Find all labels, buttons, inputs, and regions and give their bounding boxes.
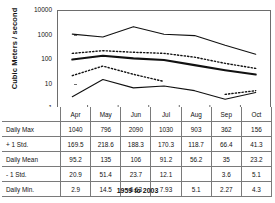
table-cell: 169.5 — [61, 137, 91, 152]
table-cell: 23.7 — [121, 167, 151, 182]
table-cell: 5.1 — [241, 167, 271, 182]
table-cell: 3.6 — [211, 167, 241, 182]
table-column-header: Oct — [241, 107, 271, 122]
table-cell: 23.2 — [241, 152, 271, 167]
table-cell: 12.1 — [151, 167, 181, 182]
y-axis-tick-label: 10 — [45, 80, 52, 87]
table-row-label: + 1 Std. — [2, 137, 61, 152]
table-corner-cell — [2, 107, 61, 122]
plot-series-group — [72, 27, 255, 100]
table-cell: 20.9 — [61, 167, 91, 182]
table-cell — [181, 167, 211, 182]
footer-caption: 1959 to 2003 — [0, 187, 275, 194]
table-cell: 118.7 — [181, 137, 211, 152]
table-column-header: Sep — [211, 107, 241, 122]
series-daily-min — [72, 80, 255, 100]
y-axis-tick-label: 1000 — [38, 31, 52, 38]
table-column-header: Aug — [181, 107, 211, 122]
table-cell: 218.6 — [91, 137, 121, 152]
table-header-row: AprMayJunJulAugSepOct — [2, 107, 272, 122]
y-axis-title: Cubic Meters / second — [10, 0, 19, 101]
series-daily-max — [72, 27, 255, 55]
table-cell: 156 — [241, 122, 271, 137]
chart-region: Cubic Meters / second 100001000100101 — [0, 0, 275, 116]
table-cell: 95.2 — [61, 152, 91, 167]
table-cell: 2090 — [121, 122, 151, 137]
table-row: Daily Mean95.213510691.256.23523.2 — [2, 152, 272, 167]
table-cell: 903 — [181, 122, 211, 137]
table-cell: 35 — [211, 152, 241, 167]
y-axis-tick-label: 10000 — [34, 7, 52, 14]
table-row-label: Daily Mean — [2, 152, 61, 167]
table-column-header: Jul — [151, 107, 181, 122]
table-cell: 796 — [91, 122, 121, 137]
table-cell: 135 — [91, 152, 121, 167]
y-axis-tick-label: 100 — [41, 56, 52, 63]
plot-area — [57, 10, 271, 108]
series-daily-mean — [72, 56, 255, 75]
table-cell: 362 — [211, 122, 241, 137]
table-column-header: Apr — [61, 107, 91, 122]
table-row: - 1 Std.20.951.423.712.13.65.1 — [2, 167, 272, 182]
figure-container: Cubic Meters / second 100001000100101 Ap… — [0, 0, 275, 203]
table-cell: 41.3 — [241, 137, 271, 152]
table-cell: 170.3 — [151, 137, 181, 152]
table-row-label: - 1 Std. — [2, 167, 61, 182]
table-cell: 56.2 — [181, 152, 211, 167]
table-body: Daily Max104079620901030903362156+ 1 Std… — [2, 122, 272, 197]
table-cell: 106 — [121, 152, 151, 167]
table-row: Daily Max104079620901030903362156 — [2, 122, 272, 137]
table-cell: 66.4 — [211, 137, 241, 152]
table-column-header: Jun — [121, 107, 151, 122]
table-row: + 1 Std.169.5218.6188.3170.3118.766.441.… — [2, 137, 272, 152]
table-column-header: May — [91, 107, 121, 122]
table-cell: 91.2 — [151, 152, 181, 167]
table-cell: 1030 — [151, 122, 181, 137]
table-row-label: Daily Max — [2, 122, 61, 137]
table-cell: 1040 — [61, 122, 91, 137]
data-table: AprMayJunJulAugSepOct Daily Max104079620… — [2, 107, 272, 197]
table-cell: 51.4 — [91, 167, 121, 182]
table-header: AprMayJunJulAugSepOct — [2, 107, 272, 122]
y-axis-tick-labels: 100001000100101 — [20, 10, 54, 108]
table-cell: 188.3 — [121, 137, 151, 152]
